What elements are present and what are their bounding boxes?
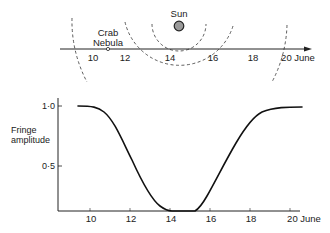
y-axis-label-line2: amplitude (11, 135, 50, 145)
x-tick-label-10: 10 (86, 213, 97, 224)
fringe-amplitude-chart: 1·0 0·5 Fringe amplitude 10 12 14 16 18 … (11, 98, 321, 224)
x-tick-label-12: 12 (126, 213, 137, 224)
x-tick-label-16: 16 (206, 213, 217, 224)
fringe-amplitude-curve (78, 106, 302, 211)
top-tick-16: 16 (208, 52, 219, 63)
outer-dashed-arc (72, 18, 87, 82)
top-tick-10: 10 (88, 52, 99, 63)
y-axis-label-line1: Fringe (11, 125, 37, 135)
y-tick-label-05: 0·5 (42, 161, 55, 171)
sun-label: Sun (171, 8, 188, 19)
sun-icon (174, 21, 184, 31)
sun-path-diagram: Sun Crab Nebula 10 12 14 16 18 20 June (60, 8, 315, 82)
diagram-canvas: Sun Crab Nebula 10 12 14 16 18 20 June 1… (0, 0, 330, 233)
x-tick-label-18: 18 (246, 213, 257, 224)
crab-nebula-label-line2: Nebula (93, 37, 124, 48)
arrow-head-icon (304, 47, 312, 52)
top-tick-20-june: 20 June (281, 52, 315, 63)
x-tick-label-20-june: 20 June (287, 213, 321, 224)
x-tick-label-14: 14 (166, 213, 177, 224)
top-tick-12: 12 (120, 52, 131, 63)
top-tick-18: 18 (248, 52, 259, 63)
y-tick-label-1: 1·0 (42, 101, 55, 111)
top-tick-14: 14 (165, 52, 176, 63)
